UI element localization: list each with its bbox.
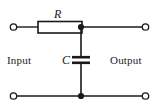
input-top-terminal <box>10 24 16 30</box>
capacitor-label: C <box>62 54 70 66</box>
output-bottom-terminal <box>142 93 148 99</box>
top-node-junction <box>78 24 84 30</box>
output-top-terminal <box>142 24 148 30</box>
resistor-label: R <box>54 8 61 20</box>
rc-filter-figure: R C Input Output <box>0 0 163 110</box>
resistor-body <box>38 22 82 34</box>
output-label: Output <box>110 55 142 66</box>
bottom-node-junction <box>78 93 84 99</box>
input-bottom-terminal <box>10 93 16 99</box>
input-label: Input <box>7 55 31 66</box>
